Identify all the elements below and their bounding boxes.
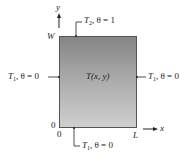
height-label: W [47, 32, 55, 41]
left-boundary-label: T1, θ = 0 [8, 72, 39, 82]
origin-x-label: 0 [57, 130, 62, 139]
bottom-boundary-label: T1, θ = 0 [82, 141, 113, 151]
y-axis-arrow-icon [57, 13, 61, 28]
region-label: T(x, y) [86, 72, 110, 81]
length-label: L [133, 131, 138, 140]
right-boundary-label: T1, θ = 0 [148, 72, 179, 82]
top-boundary-label: T2, θ = 1 [84, 16, 115, 26]
right-boundary-leader [136, 76, 146, 78]
left-boundary-leader [48, 76, 60, 78]
x-axis-label: x [160, 124, 164, 133]
bottom-boundary-leader [73, 127, 80, 146]
origin-y-label: 0 [51, 121, 56, 130]
x-axis-arrow-icon [143, 127, 158, 131]
top-boundary-leader [75, 22, 82, 37]
y-axis-label: y [56, 3, 60, 12]
